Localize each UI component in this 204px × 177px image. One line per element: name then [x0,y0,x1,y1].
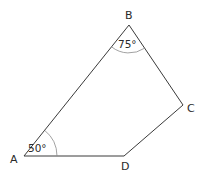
vertex-label-c: C [187,102,195,115]
edge-ab [24,25,129,156]
quadrilateral-diagram: 50° 75° A B C D [0,0,204,177]
angle-label-a: 50° [28,142,47,154]
vertex-label-d: D [121,160,129,173]
edge-cd [124,105,183,156]
vertex-label-b: B [125,9,133,22]
vertex-label-a: A [10,153,18,166]
edge-bc [129,25,183,105]
angle-label-b: 75° [118,38,137,50]
